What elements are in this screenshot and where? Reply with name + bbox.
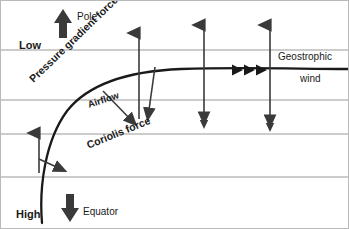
diagram-canvas: Low High Pole Equator Pressure gradient …: [0, 0, 349, 229]
pressure-gradient-force-arrows: [39, 25, 270, 173]
coriolis-arrow-1: [39, 159, 63, 170]
diagram-svg: [1, 1, 349, 229]
high-pressure-label: High: [16, 209, 40, 220]
equator-label: Equator: [83, 207, 118, 217]
low-pressure-label: Low: [19, 40, 41, 51]
coriolis-arrow-3: [148, 67, 155, 117]
geostrophic-wind-label-line2: wind: [300, 74, 321, 84]
geostrophic-wind-arrowheads: [232, 65, 267, 76]
geostrophic-wind-label-line1: Geostrophic: [278, 52, 332, 62]
equator-direction-arrow: [61, 194, 79, 222]
pgf-lower-arrowheads: [200, 120, 274, 132]
